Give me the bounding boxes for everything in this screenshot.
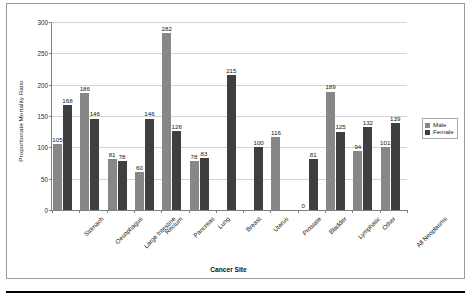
bar-value-label: 78 — [119, 154, 126, 160]
bar-value-label: 105 — [52, 137, 62, 143]
x-tick-mark — [325, 210, 326, 213]
legend-item-female[interactable]: Female — [425, 129, 454, 135]
legend-swatch-icon — [425, 130, 430, 135]
x-tick-label: Lung — [216, 215, 231, 230]
x-axis-title: Cancer Site — [51, 266, 406, 273]
x-tick-mark — [352, 210, 353, 213]
bar-female[interactable]: 139 — [391, 123, 400, 210]
bar-value-label: 81 — [109, 152, 116, 158]
bar-male[interactable]: 189 — [326, 92, 335, 210]
y-tick-label: 300 — [37, 19, 48, 26]
bar-value-label: 282 — [162, 26, 172, 32]
x-tick-label: Breast — [244, 215, 262, 233]
x-tick-label: Stomach — [82, 215, 105, 238]
bar-value-label: 125 — [335, 124, 345, 130]
bar-female[interactable]: 168 — [63, 105, 72, 210]
bar-female[interactable]: 78 — [118, 161, 127, 210]
bar-female[interactable]: 146 — [90, 119, 99, 210]
bar-group: 8178 — [107, 22, 134, 210]
bar-group: 7883 — [189, 22, 216, 210]
bar-male[interactable]: 101 — [381, 147, 390, 210]
bar-group: 186146 — [79, 22, 106, 210]
bar-group: 100 — [243, 22, 270, 210]
bar-group: 189125 — [325, 22, 352, 210]
bar-female[interactable]: 125 — [336, 132, 345, 210]
bar-value-label: 78 — [191, 154, 198, 160]
bar-value-label: 101 — [380, 140, 390, 146]
bar-value-label: 146 — [90, 111, 100, 117]
bar-female[interactable]: 81 — [309, 159, 318, 210]
y-tick-label: 0 — [44, 207, 48, 214]
bar-female[interactable]: 132 — [363, 127, 372, 210]
x-tick-mark — [107, 210, 108, 213]
y-tick-label: 50 — [41, 175, 48, 182]
chart-legend: MaleFemale — [422, 118, 458, 139]
bar-group: 105168 — [52, 22, 79, 210]
chart-frame: Proportionate Mortality Ratio 0501001502… — [6, 3, 465, 279]
bar-value-label: 100 — [253, 140, 263, 146]
x-tick-label: Uterus — [272, 215, 290, 233]
x-tick-mark — [380, 210, 381, 213]
bar-male[interactable]: 60 — [135, 172, 144, 210]
x-tick-label: Bladder — [327, 215, 347, 235]
bar-value-label: 215 — [226, 68, 236, 74]
bar-value-label: 116 — [271, 130, 281, 136]
bar-male[interactable]: 282 — [162, 33, 171, 210]
bars-layer: 1051681861468178601462821267883215100116… — [52, 22, 407, 210]
bar-female[interactable]: 215 — [227, 75, 236, 210]
x-tick-mark — [216, 210, 217, 213]
x-tick-label: Lymphatic — [357, 215, 382, 240]
x-tick-label: Other — [380, 215, 396, 231]
y-axis-title: Proportionate Mortality Ratio — [17, 66, 24, 176]
bar-male[interactable]: 81 — [108, 159, 117, 210]
bar-value-label: 81 — [310, 152, 317, 158]
bar-value-label: 126 — [172, 124, 182, 130]
bar-male[interactable]: 186 — [80, 93, 89, 210]
bar-male[interactable]: 116 — [271, 137, 280, 210]
bar-value-label: 146 — [144, 111, 154, 117]
x-tick-label: All Neoplasms — [415, 215, 448, 248]
bar-group: 116 — [270, 22, 297, 210]
bar-group: 081 — [298, 22, 325, 210]
x-tick-mark — [52, 210, 53, 213]
plot-area: 050100150200250300 105168186146817860146… — [51, 22, 407, 211]
bar-female[interactable]: 83 — [200, 158, 209, 210]
x-tick-mark — [243, 210, 244, 213]
y-tick-label: 150 — [37, 113, 48, 120]
x-tick-mark — [298, 210, 299, 213]
bar-male[interactable]: 78 — [190, 161, 199, 210]
bar-group: 282126 — [161, 22, 188, 210]
bar-group: 215 — [216, 22, 243, 210]
bar-male[interactable]: 94 — [353, 151, 362, 210]
y-tick-label: 250 — [37, 50, 48, 57]
bar-value-label: 189 — [325, 84, 335, 90]
legend-swatch-icon — [425, 123, 430, 128]
bar-value-label: 139 — [390, 116, 400, 122]
legend-label: Female — [433, 129, 454, 135]
x-tick-label: Prostate — [301, 215, 323, 237]
bar-group: 60146 — [134, 22, 161, 210]
bar-female[interactable]: 100 — [254, 147, 263, 210]
x-tick-mark — [161, 210, 162, 213]
bar-female[interactable]: 146 — [145, 119, 154, 210]
x-tick-mark — [134, 210, 135, 213]
bar-female[interactable]: 126 — [172, 131, 181, 210]
y-tick-label: 100 — [37, 144, 48, 151]
bar-value-label: 60 — [136, 165, 143, 171]
x-tick-mark — [79, 210, 80, 213]
x-tick-mark — [270, 210, 271, 213]
x-tick-mark — [407, 210, 408, 213]
bar-value-label: 83 — [201, 151, 208, 157]
bar-value-label: 186 — [80, 86, 90, 92]
bar-group: 101139 — [380, 22, 407, 210]
bar-value-label: 0 — [302, 203, 305, 209]
x-tick-mark — [189, 210, 190, 213]
bar-group: 94132 — [352, 22, 379, 210]
x-tick-label: Pancreas — [192, 215, 216, 239]
bar-value-label: 132 — [363, 120, 373, 126]
bottom-divider — [6, 291, 465, 293]
x-tick-label: Oesophagus — [113, 215, 143, 245]
bar-male[interactable]: 105 — [53, 144, 62, 210]
y-tick-label: 200 — [37, 81, 48, 88]
bar-value-label: 94 — [354, 144, 361, 150]
